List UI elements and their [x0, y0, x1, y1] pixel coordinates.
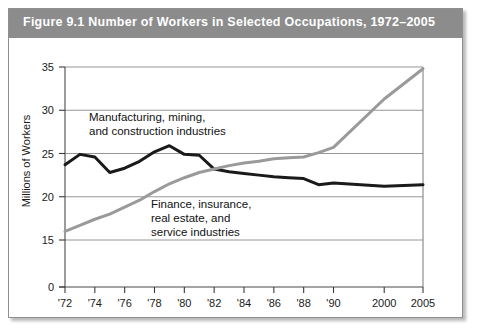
manufacturing-label-line-2: and construction industries: [89, 125, 226, 137]
x-tick-label-1984: '84: [237, 297, 251, 309]
figure-root: Figure 9.1 Number of Workers in Selected…: [0, 0, 481, 336]
x-tick-label-1990: '90: [326, 297, 340, 309]
x-tick-label-1978: '78: [147, 297, 161, 309]
y-tick-label-0: 0: [48, 281, 54, 293]
y-axis-title: Millions of Workers: [20, 114, 32, 207]
x-tick-label-2000: 2000: [372, 297, 396, 309]
finance-label-line-2: real estate, and: [151, 212, 230, 224]
x-tick-label-1980: '80: [177, 297, 191, 309]
x-tick-label-1972: '72: [58, 297, 72, 309]
x-tick-label-1982: '82: [207, 297, 221, 309]
y-tick-label-15: 15: [42, 234, 54, 246]
y-tick-label-25: 25: [42, 148, 54, 160]
finance-label-line-1: Finance, insurance,: [151, 198, 251, 210]
y-tick-label-35: 35: [42, 61, 54, 73]
x-tick-label-2005: 2005: [411, 297, 435, 309]
y-tick-label-30: 30: [42, 104, 54, 116]
finance-label-line-3: service industries: [151, 226, 240, 238]
x-tick-label-1986: '86: [267, 297, 281, 309]
manufacturing-label-line-1: Manufacturing, mining,: [89, 111, 205, 123]
chart-canvas: 01520253035Millions of Workers'72'74'76'…: [8, 8, 463, 318]
x-tick-label-1988: '88: [296, 297, 310, 309]
x-tick-label-1974: '74: [88, 297, 102, 309]
series-line-manufacturing: [65, 146, 423, 187]
y-tick-label-20: 20: [42, 191, 54, 203]
x-tick-label-1976: '76: [117, 297, 131, 309]
